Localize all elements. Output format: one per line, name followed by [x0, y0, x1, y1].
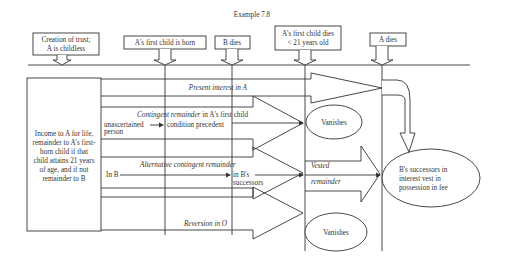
svg-text:B dies: B dies — [223, 39, 241, 47]
arrow-present-interest: Present interest in A — [101, 73, 382, 103]
svg-text:interest vest in: interest vest in — [399, 175, 441, 183]
svg-text:successors: successors — [233, 179, 264, 187]
down-arrow-icon — [154, 49, 176, 65]
svg-text:Vanishes: Vanishes — [321, 119, 347, 127]
svg-text:child attains 21 years: child attains 21 years — [34, 157, 95, 165]
source-box: Income to A for life, remainder to A's f… — [27, 78, 101, 231]
down-arrow-icon — [53, 55, 71, 65]
svg-text:A's first child is born: A's first child is born — [135, 39, 196, 47]
svg-text:Present interest in A: Present interest in A — [188, 84, 248, 92]
event-first-child-dies: A's first child dies < 21 years old — [275, 26, 341, 65]
svg-text:Creation of trust;: Creation of trust; — [41, 36, 90, 44]
outcome-b-successors-vest: B's successors in interest vest in posse… — [382, 149, 480, 207]
svg-text:born child if that: born child if that — [40, 148, 88, 156]
diagram-title: Example 7.8 — [234, 11, 271, 19]
svg-text:Vested: Vested — [311, 162, 330, 170]
svg-text:In B: In B — [106, 171, 119, 179]
arrow-reversion: Reversion in O — [101, 187, 303, 239]
arrow-vested-remainder: Vested remainder — [305, 146, 380, 202]
svg-text:of age, and if not: of age, and if not — [40, 166, 89, 174]
diagram-canvas: Example 7.8 Creation of trust; A is chil… — [0, 0, 505, 267]
svg-text:B's successors in: B's successors in — [399, 166, 448, 174]
svg-text:Contingent remainder in A's fi: Contingent remainder in A's first child — [137, 111, 248, 119]
svg-text:Alternative contingent remaind: Alternative contingent remainder — [139, 161, 236, 169]
outcome-vanishes-1: Vanishes — [306, 105, 362, 139]
svg-text:remainder to A's first-: remainder to A's first- — [33, 139, 97, 147]
event-creation-of-trust: Creation of trust; A is childless — [33, 33, 99, 65]
svg-text:Reversion in O: Reversion in O — [183, 220, 228, 228]
arrow-alternative-contingent-remainder: Alternative contingent remainder In B in… — [101, 147, 303, 199]
svg-text:remainder to B: remainder to B — [42, 175, 85, 183]
event-b-dies: B dies — [215, 36, 250, 65]
down-arrow-icon — [294, 50, 316, 65]
svg-text:A dies: A dies — [379, 36, 397, 44]
outcome-vanishes-2: Vanishes — [305, 213, 367, 251]
svg-text:Vanishes: Vanishes — [323, 229, 349, 237]
svg-text:Income to A for life,: Income to A for life, — [35, 130, 94, 138]
svg-text:remainder: remainder — [311, 178, 341, 186]
event-a-dies: A dies — [370, 33, 406, 65]
svg-text:< 21 years old: < 21 years old — [288, 39, 329, 47]
curved-arrow-icon — [382, 80, 415, 152]
svg-text:condition precedent: condition precedent — [167, 121, 224, 129]
svg-text:A is childless: A is childless — [47, 45, 86, 53]
arrow-contingent-remainder: Contingent remainder in A's first child … — [101, 96, 303, 150]
down-arrow-icon — [221, 49, 243, 65]
svg-text:in B's: in B's — [233, 171, 249, 179]
event-first-child-born: A's first child is born — [124, 36, 206, 65]
svg-text:person: person — [104, 128, 124, 136]
svg-text:possession in fee: possession in fee — [399, 184, 448, 192]
down-arrow-icon — [371, 46, 393, 65]
svg-text:A's first child dies: A's first child dies — [282, 30, 334, 38]
